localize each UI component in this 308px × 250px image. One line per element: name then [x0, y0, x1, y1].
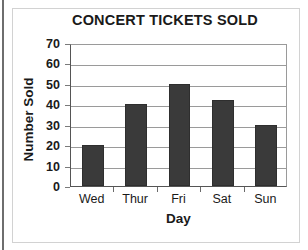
x-axis-tick-mark	[200, 187, 201, 192]
bar-thur	[125, 104, 147, 186]
bar-chart-figure: CONCERT TICKETS SOLD Number Sold 0102030…	[0, 0, 308, 250]
plot-area	[70, 44, 287, 187]
y-axis-tick-mark	[65, 167, 70, 168]
x-axis-tick-mark	[113, 187, 114, 192]
bars-group	[71, 45, 286, 186]
y-axis-tick-mark	[65, 126, 70, 127]
y-axis-tick-label: 20	[34, 140, 60, 153]
y-axis-tick-label: 70	[34, 38, 60, 51]
chart-page: CONCERT TICKETS SOLD Number Sold 0102030…	[0, 0, 308, 250]
x-axis-tick-label: Wed	[79, 192, 104, 206]
bar-fri	[169, 84, 191, 186]
y-axis-tick-label: 10	[34, 160, 60, 173]
x-axis-tick-labels: WedThurFriSatSun	[70, 192, 287, 210]
y-axis-tick-mark	[65, 187, 70, 188]
bar-wed	[82, 145, 104, 186]
y-axis-tick-mark	[65, 146, 70, 147]
x-axis-tick-mark	[157, 187, 158, 192]
x-axis-tick-label: Sat	[213, 192, 232, 206]
y-axis-tick-label: 40	[34, 99, 60, 112]
y-axis-tick-mark	[65, 105, 70, 106]
bar-sun	[255, 125, 277, 186]
x-axis-title: Day	[70, 211, 287, 226]
y-axis-tick-label: 30	[34, 119, 60, 132]
y-axis-tick-mark	[65, 64, 70, 65]
y-axis-tick-labels: 010203040506070	[34, 44, 60, 187]
x-axis-tick-label: Sun	[254, 192, 276, 206]
y-axis-tick-label: 60	[34, 58, 60, 71]
y-axis-tick-mark	[65, 85, 70, 86]
x-axis-tick-label: Thur	[122, 192, 148, 206]
x-axis-tick-label: Fri	[171, 192, 186, 206]
y-axis-tick-label: 50	[34, 79, 60, 92]
y-axis-tick-mark	[65, 44, 70, 45]
x-axis-tick-mark	[244, 187, 245, 192]
bar-sat	[212, 100, 234, 186]
y-axis-tick-label: 0	[34, 181, 60, 194]
chart-title: CONCERT TICKETS SOLD	[40, 12, 290, 28]
